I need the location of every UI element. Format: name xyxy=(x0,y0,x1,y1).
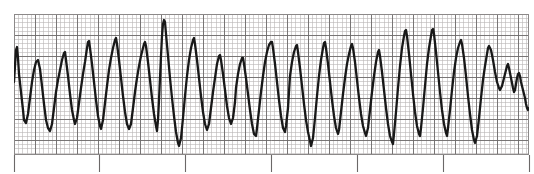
ecg-rhythm-strip xyxy=(0,0,534,174)
ecg-trace-canvas xyxy=(0,0,534,174)
